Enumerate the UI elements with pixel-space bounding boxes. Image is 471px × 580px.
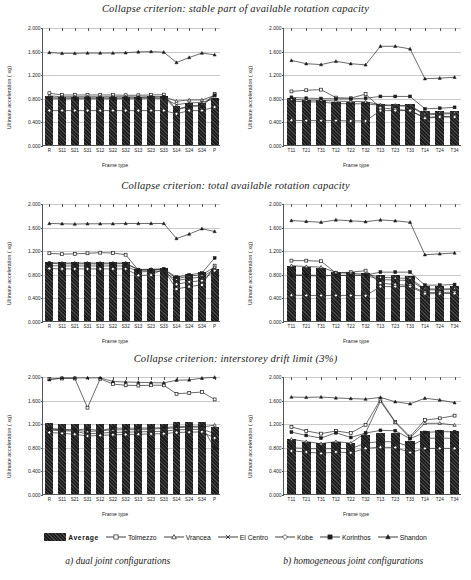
x-tick-label: T14	[421, 145, 429, 153]
x-tick-label: S13	[134, 145, 142, 153]
x-tick-label: R	[48, 321, 51, 329]
legend-item-shandon[interactable]: Shandon	[378, 533, 427, 541]
x-tick-label: T14	[421, 321, 429, 329]
legend-swatch-filled-triangle-icon	[378, 533, 398, 541]
x-tick-label: T33	[406, 494, 414, 502]
x-tick-label: S11	[58, 145, 66, 153]
x-tick-label: P	[213, 494, 216, 502]
y-tick-label: 1.600	[269, 49, 284, 55]
plot-area: 0.0000.4000.8001.2001.6002.000T11T21T31T…	[283, 204, 461, 322]
x-tick-label: T32	[362, 494, 370, 502]
x-tick-label: T34	[451, 494, 459, 502]
x-tick-label: S23	[147, 321, 155, 329]
x-tick-label: S14	[172, 494, 180, 502]
x-tick-label: T21	[302, 145, 310, 153]
y-tick-label: 1.200	[269, 421, 284, 427]
legend-item-average[interactable]: Average	[44, 533, 99, 541]
caption-a: a) dual joint configurations	[0, 556, 236, 566]
y-tick-label: 0.400	[269, 295, 284, 301]
y-tick-label: 1.200	[269, 72, 284, 78]
x-tick-label: T22	[347, 494, 355, 502]
y-tick-label: 0.400	[28, 119, 43, 125]
y-tick-label: 0.800	[269, 96, 284, 102]
y-tick-label: 0.000	[269, 492, 284, 498]
x-tick-label: S21	[71, 145, 79, 153]
x-tick-label: T12	[332, 494, 340, 502]
x-axis-label: Frame type	[245, 511, 467, 517]
series-overlay	[284, 28, 462, 146]
series-overlay	[43, 28, 221, 146]
y-axis-label: Ultimate acceleration ( xg)	[245, 371, 255, 523]
x-tick-label: S31	[83, 494, 91, 502]
y-tick-label: 2.000	[28, 201, 43, 207]
x-tick-label: S24	[185, 145, 193, 153]
legend-item-el-centro[interactable]: El Centro	[218, 533, 268, 541]
y-tick-label: 0.400	[28, 468, 43, 474]
legend-label: Korinthos	[342, 534, 371, 541]
legend-label: Kobe	[297, 534, 313, 541]
x-tick-label: T24	[436, 494, 444, 502]
legend-label: El Centro	[240, 534, 268, 541]
x-tick-label: S33	[160, 321, 168, 329]
x-tick-label: S34	[198, 321, 206, 329]
series-overlay	[43, 377, 221, 495]
y-tick-label: 1.200	[269, 248, 284, 254]
x-tick-label: S12	[96, 321, 104, 329]
y-tick-label: 1.600	[28, 398, 43, 404]
x-tick-label: S32	[122, 321, 130, 329]
plot-area: 0.0000.4000.8001.2001.6002.000RS11S21S31…	[42, 204, 220, 322]
y-axis-label: Ultimate acceleration ( xg)	[245, 198, 255, 350]
y-axis-label: Ultimate acceleration ( xg)	[4, 22, 14, 174]
x-tick-label: S23	[147, 494, 155, 502]
y-tick-label: 0.800	[28, 96, 43, 102]
x-tick-label: S14	[172, 145, 180, 153]
x-tick-label: S33	[160, 145, 168, 153]
x-axis-label: Frame type	[245, 162, 467, 168]
y-tick-label: 2.000	[269, 374, 284, 380]
y-tick-label: 1.600	[28, 225, 43, 231]
legend-label: Tolmezzo	[128, 534, 157, 541]
y-tick-label: 2.000	[269, 201, 284, 207]
y-tick-label: 0.800	[269, 272, 284, 278]
x-tick-label: T32	[362, 321, 370, 329]
y-tick-label: 0.800	[28, 445, 43, 451]
legend-label: Average	[68, 534, 99, 541]
y-axis-label: Ultimate acceleration ( xg)	[4, 371, 14, 523]
series-overlay	[43, 204, 221, 322]
x-axis-label: Frame type	[4, 162, 226, 168]
x-tick-label: S24	[185, 494, 193, 502]
x-tick-label: T13	[376, 494, 384, 502]
x-tick-label: S34	[198, 494, 206, 502]
y-tick-label: 2.000	[28, 25, 43, 31]
chart-legend: AverageTolmezzoVranceaEl CentroKobeKorin…	[8, 528, 463, 546]
x-tick-label: T13	[376, 145, 384, 153]
x-tick-label: S13	[134, 494, 142, 502]
panel-total-homogeneous: Ultimate acceleration ( xg)0.0000.4000.8…	[245, 198, 467, 350]
x-tick-label: T13	[376, 321, 384, 329]
y-tick-label: 0.400	[28, 295, 43, 301]
legend-item-kobe[interactable]: Kobe	[275, 533, 313, 541]
legend-item-tolmezzo[interactable]: Tolmezzo	[106, 533, 157, 541]
legend-swatch-open-triangle-icon	[164, 533, 184, 541]
x-tick-label: T33	[406, 321, 414, 329]
y-tick-label: 1.200	[28, 72, 43, 78]
legend-item-korinthos[interactable]: Korinthos	[320, 533, 371, 541]
x-tick-label: S11	[58, 321, 66, 329]
x-tick-label: T24	[436, 145, 444, 153]
y-tick-label: 0.000	[269, 143, 284, 149]
x-tick-label: S22	[109, 321, 117, 329]
legend-item-vrancea[interactable]: Vrancea	[164, 533, 211, 541]
y-tick-label: 0.000	[28, 143, 43, 149]
plot-area: 0.0000.4000.8001.2001.6002.000T11T21T31T…	[283, 377, 461, 495]
y-tick-label: 2.000	[28, 374, 43, 380]
y-tick-label: 1.200	[28, 421, 43, 427]
x-tick-label: S23	[147, 145, 155, 153]
x-tick-label: S31	[83, 145, 91, 153]
legend-swatch-bar-icon	[44, 533, 66, 541]
y-tick-label: 0.400	[269, 468, 284, 474]
x-tick-label: T34	[451, 145, 459, 153]
x-tick-label: T23	[391, 321, 399, 329]
x-tick-label: T24	[436, 321, 444, 329]
plot-area: 0.0000.4000.8001.2001.6002.000RS11S21S31…	[42, 377, 220, 495]
x-tick-label: T21	[302, 494, 310, 502]
